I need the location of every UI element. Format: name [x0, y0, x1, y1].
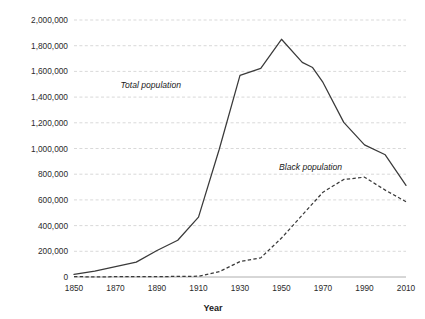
y-axis-tick-label: 800,000: [38, 169, 68, 179]
x-axis-tick-label: 1890: [148, 283, 167, 293]
x-axis-tick-label: 1930: [231, 283, 250, 293]
series-annotation-label: Total population: [121, 80, 182, 90]
series-line: [74, 39, 406, 274]
y-axis-tick-label: 600,000: [38, 195, 68, 205]
data-series-group: [74, 39, 406, 277]
y-axis-tick-label: 400,000: [38, 221, 68, 231]
series-annotation-label: Black population: [279, 162, 342, 172]
y-axis-tick-label: 1,800,000: [31, 41, 68, 51]
x-axis-tick-label: 2010: [397, 283, 416, 293]
x-axis-tick-label: 1970: [314, 283, 333, 293]
x-axis-tick-labels: 185018701890191019301950197019902010: [65, 283, 416, 293]
series-annotations-group: Total populationBlack population: [121, 80, 343, 172]
y-axis-tick-label: 1,200,000: [31, 118, 68, 128]
chart-canvas: 0200,000400,000600,000800,0001,000,0001,…: [0, 0, 425, 319]
x-axis-tick-label: 1870: [106, 283, 125, 293]
y-axis-tick-label: 1,400,000: [31, 92, 68, 102]
x-axis-tick-label: 1990: [355, 283, 374, 293]
y-axis-tick-label: 2,000,000: [31, 15, 68, 25]
x-axis-title: Year: [203, 303, 223, 313]
x-axis-tick-label: 1950: [272, 283, 291, 293]
x-axis-tick-label: 1910: [189, 283, 208, 293]
gridlines-group: [74, 20, 406, 277]
population-line-chart: 0200,000400,000600,000800,0001,000,0001,…: [0, 0, 425, 319]
y-axis-tick-label: 1,000,000: [31, 144, 68, 154]
y-axis-tick-labels: 0200,000400,000600,000800,0001,000,0001,…: [31, 15, 68, 282]
x-axis-tick-label: 1850: [65, 283, 84, 293]
y-axis-tick-label: 0: [63, 272, 68, 282]
y-axis-tick-label: 200,000: [38, 246, 68, 256]
series-line: [74, 177, 406, 277]
y-axis-tick-label: 1,600,000: [31, 66, 68, 76]
